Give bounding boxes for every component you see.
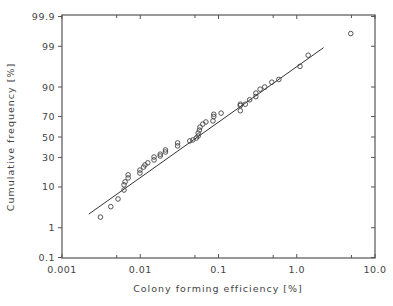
data-point xyxy=(219,111,224,116)
data-point xyxy=(211,119,216,124)
data-point xyxy=(116,197,121,202)
data-point xyxy=(175,141,180,146)
plot-frame xyxy=(62,15,375,258)
y-tick-label: 99 xyxy=(42,41,55,52)
y-tick-label: 10 xyxy=(42,181,55,192)
x-axis-title: Colony forming efficiency [%] xyxy=(133,283,303,294)
y-axis-title: Cumulative frequency [%] xyxy=(5,63,16,211)
data-point xyxy=(348,31,353,36)
y-tick-label: 50 xyxy=(42,132,55,143)
y-tick-label: 99.9 xyxy=(32,11,55,22)
x-tick-label: 0.01 xyxy=(129,264,152,275)
y-axis-ticks: 0.1110305070909999.9 xyxy=(32,11,375,263)
x-tick-label: 10.0 xyxy=(363,264,386,275)
data-point xyxy=(152,155,157,160)
probability-plot: 0.0010.010.11.010.0 0.1110305070909999.9… xyxy=(0,0,393,306)
data-point xyxy=(108,204,113,209)
data-point xyxy=(122,183,127,188)
y-tick-label: 70 xyxy=(42,111,55,122)
y-tick-label: 1 xyxy=(48,222,55,233)
data-point xyxy=(306,53,311,58)
x-axis-ticks: 0.0010.010.11.010.0 xyxy=(47,15,386,275)
x-tick-label: 1.0 xyxy=(288,264,305,275)
data-point xyxy=(196,131,201,136)
y-tick-label: 30 xyxy=(42,152,55,163)
data-points xyxy=(98,31,353,219)
data-point xyxy=(126,173,131,178)
y-tick-label: 90 xyxy=(42,82,55,93)
x-tick-label: 0.001 xyxy=(47,264,77,275)
data-point xyxy=(258,87,263,92)
data-point xyxy=(262,85,267,90)
data-point xyxy=(238,108,243,113)
y-tick-label: 0.1 xyxy=(38,252,55,263)
x-tick-label: 0.1 xyxy=(210,264,227,275)
regression-line xyxy=(89,48,324,214)
data-point xyxy=(98,215,103,220)
